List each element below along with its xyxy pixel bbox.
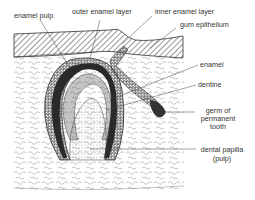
gum-epithelium-layer [14, 29, 183, 58]
tooth-germ-diagram [0, 0, 255, 200]
label-germ-of-permanent-tooth: germ of permanent tooth [196, 107, 240, 131]
label-papilla-line-1: dental papilla [197, 145, 247, 154]
label-outer-enamel-layer: outer enamel layer [72, 8, 132, 16]
label-inner-enamel-layer: inner enamel layer [155, 8, 214, 16]
label-dentine: dentine [198, 81, 222, 89]
label-dental-papilla: dental papilla (pulp) [197, 145, 247, 163]
label-enamel-pulp: enamel pulp [14, 12, 53, 20]
label-papilla-line-2: (pulp) [197, 154, 247, 163]
label-gum-epithelium: gum epithelium [180, 21, 229, 29]
label-germ-line-3: tooth [196, 123, 240, 131]
label-enamel: enamel [200, 61, 224, 69]
